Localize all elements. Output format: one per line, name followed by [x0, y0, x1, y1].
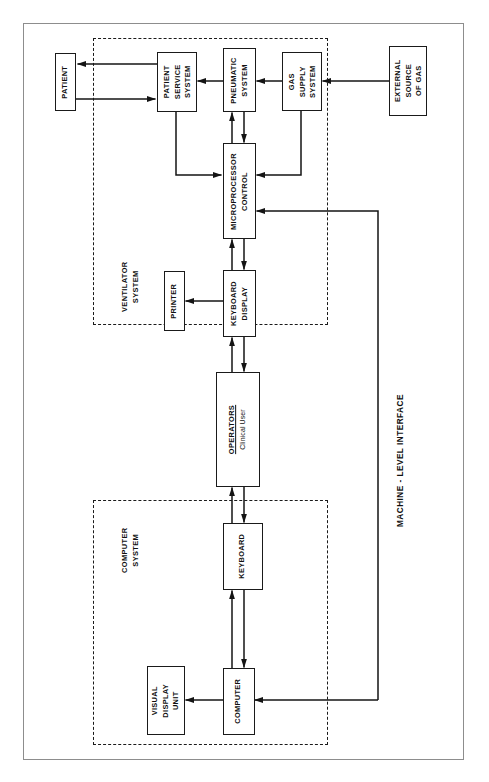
node-keyboard-display[interactable]: KEYBOARD DISPLAY — [223, 270, 256, 337]
node-computer-label: COMPUTER — [234, 679, 245, 724]
node-gas-supply-system[interactable]: GAS SUPPLY SYSTEM — [282, 52, 322, 111]
node-keyboard[interactable]: KEYBOARD — [223, 523, 263, 590]
label-machine-level-interface: MACHINE - LEVEL INTERFACE — [396, 394, 407, 527]
node-operators[interactable]: OPERATORS Clinical User — [216, 372, 260, 487]
node-computer[interactable]: COMPUTER — [223, 668, 255, 735]
node-printer-label: PRINTER — [169, 284, 180, 319]
node-pneumatic-system-label: PNEUMATIC SYSTEM — [229, 57, 250, 104]
label-ventilator-system: VENTILATOR SYSTEM — [120, 261, 141, 312]
label-computer-system: COMPUTER SYSTEM — [120, 528, 141, 574]
node-visual-display-unit[interactable]: VISUAL DISPLAY UNIT — [147, 666, 185, 735]
node-microprocessor-control[interactable]: MICROPROCESSOR CONTROL — [223, 143, 256, 239]
node-visual-display-unit-label: VISUAL DISPLAY UNIT — [150, 684, 182, 718]
node-patient[interactable]: PATIENT — [55, 53, 76, 111]
node-operators-subtitle: Clinical User — [238, 405, 249, 454]
node-external-source-of-gas-label: EXTERNAL SOURCE OF GAS — [392, 60, 424, 103]
node-keyboard-label: KEYBOARD — [238, 534, 249, 579]
node-operators-label: OPERATORS Clinical User — [228, 405, 249, 454]
node-patient-service-system-label: PATIENT SERVICE SYSTEM — [161, 65, 193, 100]
node-operators-title: OPERATORS — [228, 405, 239, 454]
node-printer[interactable]: PRINTER — [164, 271, 185, 331]
node-keyboard-display-label: KEYBOARD DISPLAY — [229, 281, 250, 326]
node-pneumatic-system[interactable]: PNEUMATIC SYSTEM — [223, 48, 256, 112]
node-gas-supply-system-label: GAS SUPPLY SYSTEM — [286, 65, 318, 98]
node-microprocessor-control-label: MICROPROCESSOR CONTROL — [229, 153, 250, 230]
node-patient-service-system[interactable]: PATIENT SERVICE SYSTEM — [157, 52, 197, 112]
node-patient-label: PATIENT — [60, 66, 71, 99]
node-external-source-of-gas[interactable]: EXTERNAL SOURCE OF GAS — [389, 46, 427, 116]
